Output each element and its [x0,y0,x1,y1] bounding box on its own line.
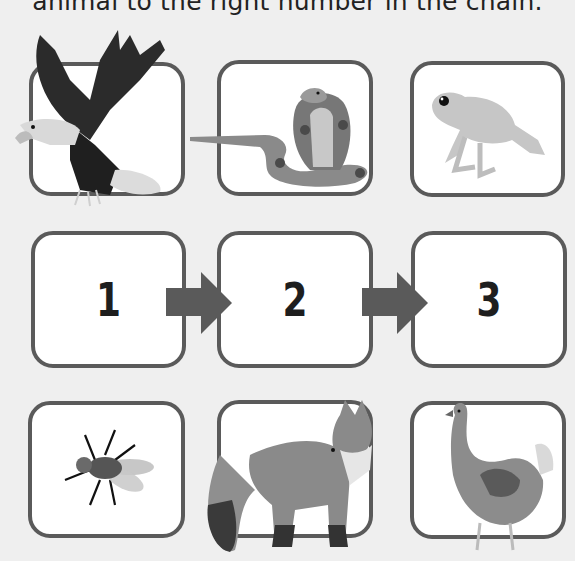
arrow-right-icon [362,270,432,336]
chain-slot-3[interactable]: 3 [411,231,567,368]
chain-number-3: 3 [431,273,546,327]
chain-slot-2[interactable]: 2 [217,231,373,368]
chain-slot-1[interactable]: 1 [31,231,186,368]
fly-image [60,425,160,515]
chain-number-2: 2 [237,273,352,327]
frog-image [420,85,560,175]
eagle-image [0,20,200,220]
cobra-image [185,75,385,195]
chain-number-1: 1 [51,273,166,327]
instruction-heading: animal to the right number in the chain. [0,0,575,16]
arrow-right-icon [166,270,236,336]
fox-image [200,395,380,560]
hen-image [425,395,565,560]
